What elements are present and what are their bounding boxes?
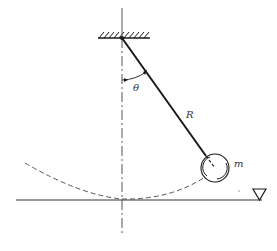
pendulum-diagram: θ R m: [0, 0, 277, 251]
reference-triangle-icon: [253, 189, 266, 200]
pivot-point: [120, 36, 124, 40]
angle-label: θ: [133, 82, 139, 93]
angle-arrow-icon: [124, 78, 128, 82]
trajectory-arc: [25, 163, 205, 199]
ceiling-support: [98, 32, 150, 38]
length-label: R: [185, 109, 194, 120]
mass-label: m: [234, 158, 243, 169]
pendulum-rod: [122, 38, 206, 156]
marker-dot: [238, 190, 240, 192]
